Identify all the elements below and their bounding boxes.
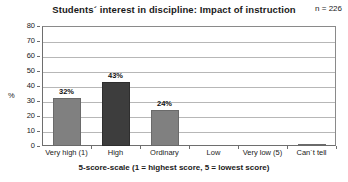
x-tick-label: Ordinary: [140, 148, 189, 157]
y-tick-mark: [37, 86, 40, 87]
x-axis-title: 5-score-scale (1 = highest score, 5 = lo…: [0, 163, 348, 172]
chart-title: Students´ interest in discipline: Impact…: [0, 4, 348, 15]
y-tick-mark: [37, 146, 40, 147]
y-tick-label: 20: [27, 112, 35, 120]
y-tick-label: 40: [27, 82, 35, 90]
bar-value-label: 32%: [59, 87, 74, 96]
bar-slot: [238, 26, 287, 146]
bar[interactable]: [151, 110, 179, 146]
y-tick-label: 10: [27, 127, 35, 135]
x-tick-mark: [238, 146, 239, 149]
y-tick-label: 80: [27, 22, 35, 30]
y-tick-label: 60: [27, 52, 35, 60]
y-tick-mark: [37, 56, 40, 57]
bar[interactable]: [102, 82, 130, 147]
x-tick-mark: [189, 146, 190, 149]
y-tick-mark: [37, 116, 40, 117]
x-tick-label: Low: [189, 148, 238, 157]
y-tick-mark: [37, 26, 40, 27]
x-tick-mark: [336, 146, 337, 149]
x-tick-label: High: [91, 148, 140, 157]
y-tick-mark: [37, 71, 40, 72]
bars-layer: 32%43%24%: [42, 26, 336, 146]
y-axis-ticks: 01020304050607080: [0, 26, 40, 146]
y-tick-label: 70: [27, 37, 35, 45]
x-axis-labels: Very high (1)HighOrdinaryLowVery low (5)…: [42, 148, 336, 160]
y-tick-label: 0: [31, 142, 35, 150]
x-tick-label: Very high (1): [42, 148, 91, 157]
bar[interactable]: [298, 144, 326, 146]
bar-slot: 43%: [91, 26, 140, 146]
bar-slot: 32%: [42, 26, 91, 146]
chart-container: Students´ interest in discipline: Impact…: [0, 0, 348, 182]
bar-value-label: 24%: [157, 99, 172, 108]
x-tick-label: Very low (5): [238, 148, 287, 157]
bar-slot: [189, 26, 238, 146]
bar-slot: 24%: [140, 26, 189, 146]
x-tick-mark: [140, 146, 141, 149]
y-tick-mark: [37, 101, 40, 102]
bar-value-label: 43%: [108, 71, 123, 80]
x-tick-mark: [91, 146, 92, 149]
y-tick-mark: [37, 131, 40, 132]
bar-slot: [287, 26, 336, 146]
x-tick-label: Can´t tell: [287, 148, 336, 157]
y-tick-label: 30: [27, 97, 35, 105]
y-tick-mark: [37, 41, 40, 42]
y-tick-label: 50: [27, 67, 35, 75]
bar[interactable]: [53, 98, 81, 146]
x-tick-mark: [287, 146, 288, 149]
sample-size-annotation: n = 226: [315, 4, 342, 13]
